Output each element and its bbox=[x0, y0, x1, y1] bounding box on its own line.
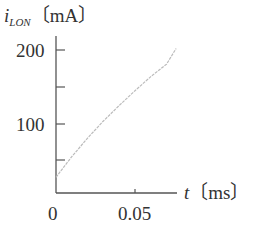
x-axis-label: t〔ms〕 bbox=[184, 182, 249, 203]
y-ticks bbox=[56, 50, 65, 160]
current-curve bbox=[56, 49, 176, 178]
y-tick-label-200: 200 bbox=[16, 40, 45, 61]
y-axis-label: iLON〔mA〕 bbox=[4, 5, 97, 28]
chart: iLON〔mA〕 200 100 0 0.05 t〔ms〕 bbox=[0, 0, 262, 238]
x-tick-label-0: 0 bbox=[48, 203, 58, 224]
y-tick-label-100: 100 bbox=[16, 114, 45, 135]
x-tick-label-0.05: 0.05 bbox=[118, 203, 151, 224]
